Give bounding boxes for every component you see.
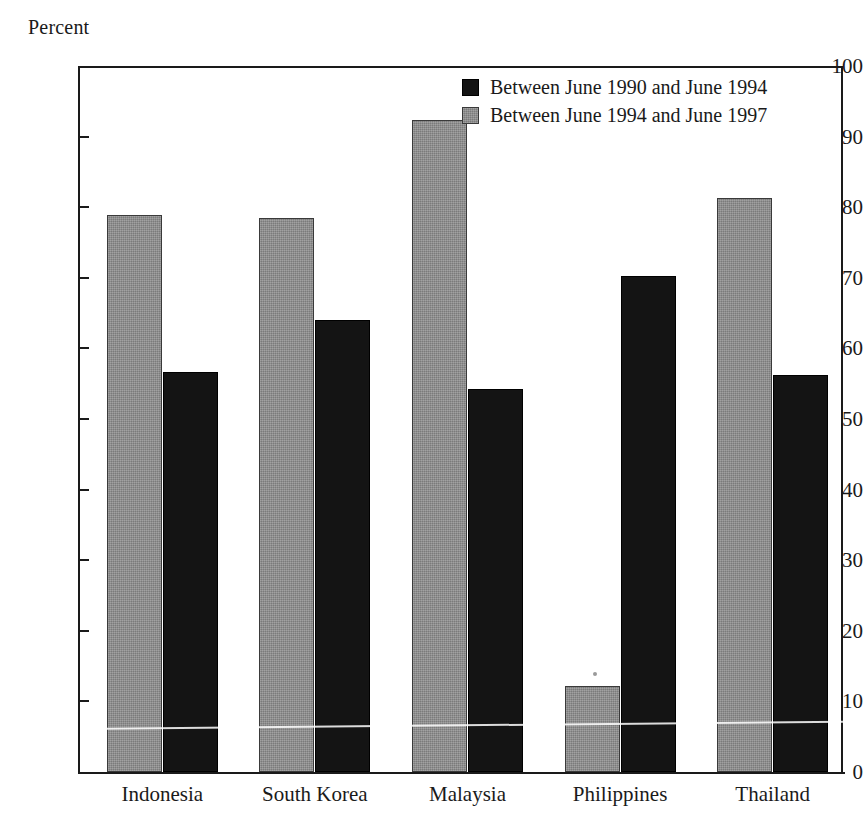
- y-tick-mark: [78, 700, 89, 702]
- y-tick-mark: [78, 136, 89, 138]
- y-tick-label: 70: [807, 265, 863, 290]
- x-tick-label: Indonesia: [121, 782, 203, 807]
- x-tick-label: South Korea: [262, 782, 368, 807]
- bar-malaysia-dark: [468, 389, 523, 772]
- y-tick-mark: [78, 630, 89, 632]
- y-tick-mark: [78, 206, 89, 208]
- legend-item: Between June 1990 and June 1994: [462, 76, 827, 99]
- x-tick-label: Thailand: [735, 782, 810, 807]
- y-tick-label: 60: [807, 336, 863, 361]
- bar-chart: Percent 0102030405060708090100 Indonesia…: [0, 0, 863, 826]
- x-axis-baseline: [78, 772, 845, 774]
- y-tick-mark: [78, 489, 89, 491]
- bar-malaysia-gray: [412, 120, 467, 772]
- y-tick-mark: [78, 277, 89, 279]
- y-tick-mark: [78, 347, 89, 349]
- legend-swatch-series-1: [462, 79, 479, 96]
- bar-south-korea-dark: [315, 320, 370, 772]
- y-tick-mark: [78, 418, 89, 420]
- y-tick-mark: [78, 559, 89, 561]
- legend-label-series-2: Between June 1994 and June 1997: [490, 104, 767, 127]
- x-tick-label: Philippines: [573, 782, 668, 807]
- bar-indonesia-gray: [107, 215, 162, 772]
- chart-legend: Between June 1990 and June 1994 Between …: [440, 66, 843, 142]
- bar-philippines-dark: [621, 276, 676, 772]
- bar-south-korea-gray: [259, 218, 314, 772]
- bar-thailand-dark: [773, 375, 828, 772]
- legend-item: Between June 1994 and June 1997: [462, 104, 827, 127]
- bar-philippines-gray: [565, 686, 620, 772]
- bar-indonesia-dark: [163, 372, 218, 772]
- x-tick-label: Malaysia: [429, 782, 506, 807]
- legend-label-series-1: Between June 1990 and June 1994: [490, 76, 767, 99]
- legend-swatch-series-2: [462, 107, 479, 124]
- y-tick-label: 80: [807, 195, 863, 220]
- y-axis-title: Percent: [28, 16, 89, 39]
- bar-thailand-gray: [717, 198, 772, 772]
